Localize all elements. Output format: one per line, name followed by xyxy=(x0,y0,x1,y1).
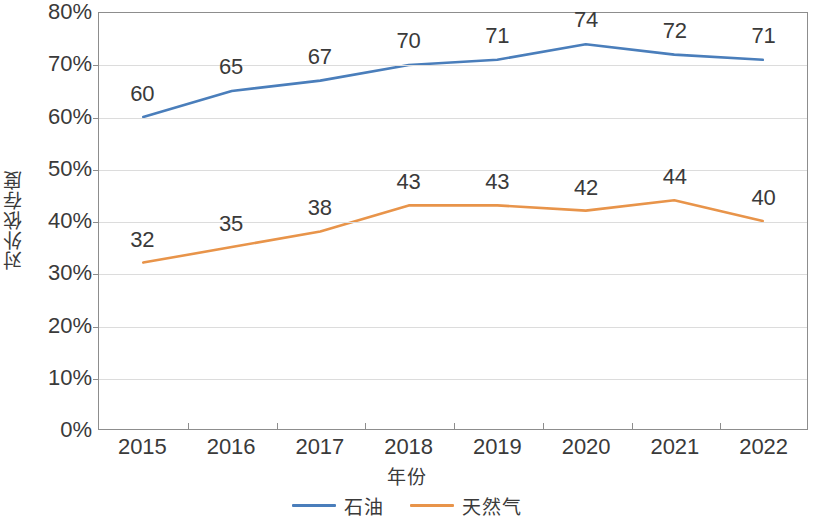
y-axis-tick-label: 20% xyxy=(48,313,92,339)
x-axis-tick-label: 2020 xyxy=(562,434,611,460)
series-line-2 xyxy=(143,200,763,262)
line-chart: 对外依存度 0%10%20%30%40%50%60%70%80% 2015201… xyxy=(0,0,813,519)
x-axis-tick-label: 2017 xyxy=(295,434,344,460)
x-axis-category-separator xyxy=(720,423,721,429)
y-axis-tickmark xyxy=(93,170,99,171)
y-axis-tickmark xyxy=(93,327,99,328)
gridline xyxy=(99,274,807,275)
gridline xyxy=(99,65,807,66)
gridline xyxy=(99,170,807,171)
legend-item-label: 石油 xyxy=(344,492,384,519)
y-axis-tick-label: 0% xyxy=(60,417,92,443)
x-axis-tick-label: 2022 xyxy=(739,434,788,460)
gridline xyxy=(99,118,807,119)
plot-area xyxy=(98,12,808,430)
legend-line-swatch xyxy=(292,504,336,507)
x-axis-tick-label: 2015 xyxy=(118,434,167,460)
chart-legend: 石油天然气 xyxy=(0,492,813,519)
y-axis-tickmark xyxy=(93,65,99,66)
x-axis-tick-label: 2021 xyxy=(650,434,699,460)
y-axis-tick-label: 30% xyxy=(48,260,92,286)
y-axis-tick-labels: 0%10%20%30%40%50%60%70%80% xyxy=(24,0,96,440)
x-axis-category-separator xyxy=(188,423,189,429)
gridline xyxy=(99,327,807,328)
y-axis-tickmark xyxy=(93,118,99,119)
y-axis-tick-label: 50% xyxy=(48,156,92,182)
x-axis-tick-label: 2018 xyxy=(384,434,433,460)
x-axis-tick-label: 2019 xyxy=(473,434,522,460)
series-lines xyxy=(99,13,807,429)
y-axis-tickmark xyxy=(93,274,99,275)
y-axis-tickmark xyxy=(93,222,99,223)
x-axis-category-separator xyxy=(543,423,544,429)
x-axis-category-separator xyxy=(365,423,366,429)
y-axis-tick-label: 70% xyxy=(48,51,92,77)
y-axis-tick-label: 40% xyxy=(48,208,92,234)
legend-line-swatch xyxy=(410,504,454,507)
legend-item-1[interactable]: 石油 xyxy=(292,492,384,519)
series-line-1 xyxy=(143,44,763,117)
legend-item-2[interactable]: 天然气 xyxy=(410,492,522,519)
x-axis-category-separator xyxy=(277,423,278,429)
x-axis-tick-label: 2016 xyxy=(207,434,256,460)
legend-item-label: 天然气 xyxy=(462,492,522,519)
x-axis-category-separator xyxy=(632,423,633,429)
gridline xyxy=(99,222,807,223)
y-axis-tickmark xyxy=(93,379,99,380)
y-axis-tick-label: 60% xyxy=(48,104,92,130)
x-axis-category-separator xyxy=(454,423,455,429)
y-axis-tick-label: 80% xyxy=(48,0,92,25)
gridline xyxy=(99,379,807,380)
x-axis-title: 年份 xyxy=(0,462,813,489)
y-axis-tick-label: 10% xyxy=(48,365,92,391)
